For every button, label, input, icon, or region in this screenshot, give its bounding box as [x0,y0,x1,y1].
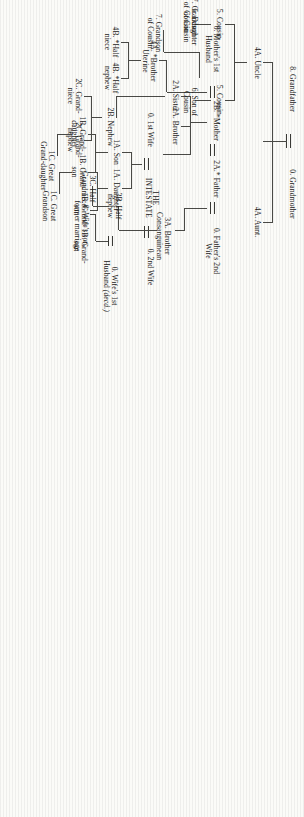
connector-granddaughter-drop [58,134,72,135]
consanguinity-chart-page: 8. Grandfather 0. Grandmother 4A. Uncle … [0,0,304,817]
node-father: 2A.* Father [212,156,220,202]
connector-gsc-top [199,52,200,78]
chart-canvas: 8. Grandfather 0. Grandmother 4A. Uncle … [0,0,304,817]
connector-to-aunt [263,222,273,223]
connector-brother-uterine-children-drop [129,60,141,61]
connector-intestate-children-span [131,152,132,188]
connector-great-granddaughter [57,134,58,156]
node-grandfather: 8. Grandfather [288,44,296,134]
connector-to-granddaughter [88,134,96,135]
connector-to-father [263,141,273,142]
connector-grandparents-span [272,62,273,222]
node-second-wife: 0. 2nd Wife [146,238,154,296]
connector-gsc-vert [164,52,200,53]
connector-sister-to-nephew [116,96,117,118]
node-fathers-2nd-wife: 0. Father's 2nd Wife [204,214,220,288]
connector-brother-consanguinean [184,208,185,230]
connector-to-intestate [163,154,191,155]
connector-uncle-drop [235,62,247,63]
connector-intestate-drop [132,164,142,165]
connector-bro-cons-drop [119,230,157,231]
node-brother: 2A. Brother [171,98,179,154]
node-wifes-1st-husband: 0. Wife's 1st Husband (decd.) [102,246,118,326]
connector-grandparents-drop [273,141,287,142]
node-grandmother: 0. Grandmother [288,148,296,240]
marriage-link-intestate-1st [144,158,149,170]
connector-to-cousin-right [225,100,235,101]
node-grandson3: 1B. Grand- son [72,218,88,274]
connector-to-half-niece [121,42,129,43]
node-cousin-left: 5. Cousin [215,0,223,50]
node-son-of-cousin: 6. Son of Cousin [182,74,198,130]
connector-wifes-1st-drop [96,241,108,242]
connector-uncle-children-span [234,24,235,100]
connector-to-cousin-left [225,24,235,25]
connector-brother-uterine [166,60,167,92]
node-cousin-right: 5. Cousin [215,74,223,126]
marriage-link-father-2nd [210,202,215,214]
connector-to-daughter [122,188,132,189]
connector-gsc-bottom [163,30,164,52]
marriage-link-wife-1st-husband [108,236,113,246]
marriage-link-parents [210,144,215,156]
node-uncle-left: 4A. Uncle [253,34,261,92]
connector-brother-cons-drop [175,230,185,231]
node-great-grandson: 1C. Great Grandson [41,170,57,242]
connector-brother-uterine-children-span [128,42,129,78]
node-grandson-of-cousin-2: 7. Grandson of Cousin [182,0,198,48]
connector-grandson1-drop [60,172,72,173]
node-half-grandniece: 3C. Half Grandniece [80,158,96,220]
connector-son-drop [96,152,108,153]
connector-to-son [122,152,132,153]
connector-sister-drop [117,96,165,97]
node-grandson-of-cousin-1: 7. Grandson of Cousin [146,2,162,64]
node-aunt: 4A. Aunt. [253,196,261,248]
connector-great-grandson [59,172,60,194]
connector-daughter-drop [98,188,108,189]
decd-annotation: (decd.) [102,290,111,312]
connector-nephew-drop [92,117,102,118]
node-brother-consanguinean: 3A. Brother Consanguinean [155,200,171,272]
connector-to-half-nephew [121,78,129,79]
node-first-wife: 0. 1st Wife [146,102,154,158]
marriage-link-intestate-2nd [144,226,149,238]
connector-father-2nd-drop [185,208,207,209]
connector-to-grandniece [84,96,92,97]
connector-to-uncle [263,62,273,63]
connector-daughter-children-span [97,172,98,210]
